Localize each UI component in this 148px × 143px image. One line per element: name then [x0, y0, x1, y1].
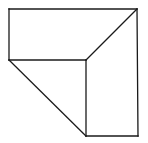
- edge-CE: [9, 60, 86, 136]
- edge-BF: [137, 9, 138, 136]
- geometric-figure: [0, 0, 148, 143]
- figure-edges: [9, 9, 138, 136]
- edge-BD: [86, 9, 137, 60]
